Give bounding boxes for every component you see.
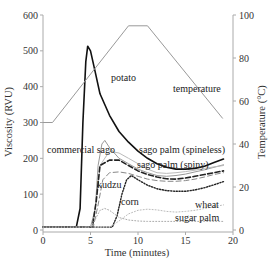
label-wheat: wheat <box>195 199 219 210</box>
label-potato: potato <box>111 72 136 83</box>
y-tick-label: 500 <box>23 45 38 56</box>
y-tick-label: 300 <box>23 117 38 128</box>
y2-tick-label: 100 <box>239 10 254 21</box>
label-sugar-palm: sugar palm <box>175 212 219 223</box>
label-corn: corn <box>121 196 139 207</box>
label-kudzu: kudzu <box>97 179 121 190</box>
x-tick-label: 15 <box>181 235 191 246</box>
label-commercial-sago: commercial sago <box>47 144 115 155</box>
y-tick-label: 0 <box>33 225 38 236</box>
y-tick-label: 100 <box>23 189 38 200</box>
viscosity-temperature-chart: 010020030040050060002040608010005101520 … <box>0 0 275 269</box>
series-labels: potato temperature commercial sago sago … <box>47 72 225 223</box>
y-tick-label: 400 <box>23 81 38 92</box>
x-tick-label: 0 <box>41 235 46 246</box>
x-axis-title: Time (minutes) <box>105 247 170 259</box>
y-tick-label: 200 <box>23 153 38 164</box>
label-sago-palm-spineless: sago palm (spineless) <box>139 144 225 156</box>
y-axis-title: Viscosity (RVU) <box>3 87 15 157</box>
y2-tick-label: 60 <box>239 96 249 107</box>
y2-axis-title: Temperature (°C) <box>256 85 268 159</box>
y2-tick-label: 0 <box>239 225 244 236</box>
x-tick-label: 10 <box>133 235 143 246</box>
x-tick-label: 20 <box>228 235 238 246</box>
x-tick-label: 5 <box>88 235 93 246</box>
y2-tick-label: 20 <box>239 182 249 193</box>
y-tick-label: 600 <box>23 10 38 21</box>
y2-tick-label: 40 <box>239 139 249 150</box>
label-temperature: temperature <box>173 83 221 94</box>
label-sago-palm-spiny: sago palm (spiny) <box>137 159 209 171</box>
y2-tick-label: 80 <box>239 53 249 64</box>
